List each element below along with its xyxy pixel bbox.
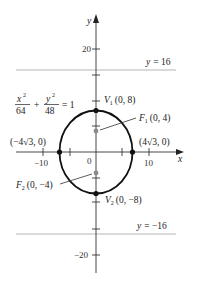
f2-label: F2(0, −4) bbox=[15, 180, 53, 191]
ellipse-diagram: y x 20 −20 −10 0 10 y= 16 y= −16 x 2 64 … bbox=[0, 0, 197, 289]
ellipse-equation: x 2 64 + y 2 48 = 1 bbox=[15, 92, 75, 116]
focus-f1-point bbox=[94, 129, 99, 134]
svg-text:x: x bbox=[16, 94, 22, 104]
svg-text:48: 48 bbox=[45, 106, 55, 116]
vertex-v1-point bbox=[93, 108, 98, 113]
y-tick-label-neg20: −20 bbox=[74, 250, 89, 260]
directrix-bottom-label: y= −16 bbox=[136, 221, 167, 231]
right-vertex-label: (4√3, 0) bbox=[139, 137, 170, 148]
co-vertex-left-point bbox=[57, 149, 62, 154]
co-vertex-right-point bbox=[130, 149, 135, 154]
x-axis-label: x bbox=[177, 154, 183, 164]
v1-label: V1(0, 8) bbox=[104, 95, 135, 106]
svg-text:= 1: = 1 bbox=[62, 100, 75, 110]
v2-label: V2(0, −8) bbox=[105, 195, 142, 206]
svg-text:y: y bbox=[45, 94, 51, 104]
left-vertex-label: (−4√3, 0) bbox=[10, 137, 46, 148]
svg-text:+: + bbox=[34, 100, 39, 110]
directrix-top-label: y= 16 bbox=[145, 57, 171, 67]
x-tick-label-10: 10 bbox=[144, 158, 154, 168]
y-axis-arrow-icon bbox=[93, 14, 99, 23]
y-axis-label: y bbox=[86, 16, 92, 26]
x-tick-label-0: 0 bbox=[87, 156, 92, 166]
svg-text:64: 64 bbox=[16, 106, 26, 116]
svg-text:2: 2 bbox=[52, 92, 55, 98]
svg-text:2: 2 bbox=[23, 92, 26, 98]
focus-f2-point bbox=[94, 171, 99, 176]
x-tick-label-neg10: −10 bbox=[34, 158, 49, 168]
f1-label: F1(0, 4) bbox=[138, 113, 170, 124]
y-tick-label-20: 20 bbox=[82, 44, 92, 54]
vertex-v2-point bbox=[93, 191, 98, 196]
